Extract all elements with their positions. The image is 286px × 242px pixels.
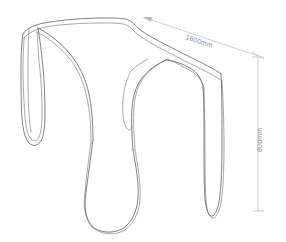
dimension-width-line [146,18,258,56]
right-leg-outer-contour-inner [204,81,224,218]
furniture-sketch-canvas: 1600mm 800mm [0,0,286,242]
dimension-height-group: 800mm [252,57,264,211]
center-leg-inner-loop [123,71,132,130]
seat-front-web-edge-inner [37,32,91,142]
seat-top-outer-edge [23,18,221,74]
dimension-arrow-icon [142,17,152,22]
center-leg-left-contour [85,140,138,232]
left-leg-inner-contour [23,32,42,141]
seat-front-web-edge [38,28,93,140]
center-leg-right-contour-inner [134,59,168,150]
dimension-height-label: 800mm [256,128,263,152]
right-leg-elbow-inner [168,59,204,88]
left-leg-fold-crease [28,30,31,132]
right-leg [166,59,224,218]
left-leg [21,28,45,145]
center-leg-inner-loop-edge [131,59,148,71]
seat-top-inner-edge [24,23,222,81]
stool-object [21,18,224,234]
center-leg-right-contour [132,60,166,150]
dimension-width-group: 1600mm [142,17,264,59]
center-leg-left-contour-inner [84,142,140,234]
right-leg-elbow-outer [166,60,203,86]
center-leg [84,59,168,234]
dimension-width-label: 1600mm [185,33,214,49]
